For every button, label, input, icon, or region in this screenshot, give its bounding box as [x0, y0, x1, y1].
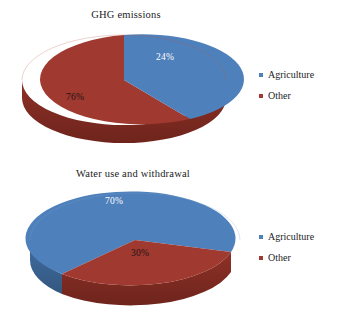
chart-ghg-emissions: GHG emissions 24% 76% Agriculture Other — [0, 0, 348, 164]
pie-label-other: 76% — [66, 92, 84, 102]
pie-label-agriculture: 70% — [105, 196, 123, 206]
legend-label: Agriculture — [268, 70, 314, 80]
chart-legend: Agriculture Other — [259, 64, 314, 106]
legend-label: Agriculture — [268, 232, 314, 242]
legend-swatch-icon — [259, 256, 263, 260]
legend-item-other[interactable]: Other — [259, 85, 314, 106]
legend-swatch-icon — [259, 94, 263, 98]
chart-legend: Agriculture Other — [259, 226, 314, 268]
legend-label: Other — [268, 253, 291, 263]
legend-swatch-icon — [259, 73, 263, 77]
legend-item-other[interactable]: Other — [259, 247, 314, 268]
legend-label: Other — [268, 91, 291, 101]
legend-swatch-icon — [259, 235, 263, 239]
legend-item-agriculture[interactable]: Agriculture — [259, 226, 314, 247]
pie-label-other: 30% — [131, 248, 149, 258]
chart-water-use-and-withdrawal: Water use and withdrawal 70% 30% — [0, 164, 348, 328]
legend-item-agriculture[interactable]: Agriculture — [259, 64, 314, 85]
pie-label-agriculture: 24% — [156, 52, 174, 62]
